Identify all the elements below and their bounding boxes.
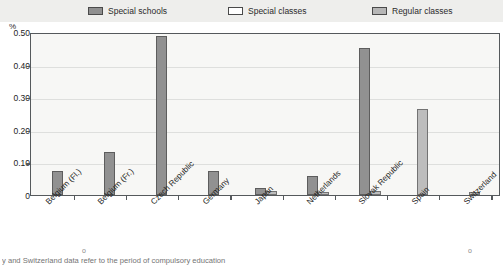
x-axis-tick [74, 196, 75, 200]
gridline [31, 164, 499, 165]
plot-area [30, 33, 500, 196]
legend-swatch-icon [228, 7, 243, 15]
x-axis-tick [126, 196, 127, 200]
legend-item-regular-classes: Regular classes [372, 4, 452, 18]
x-axis-tick [439, 196, 440, 200]
legend-item-special-schools: Special schools [88, 4, 167, 18]
x-axis-tick [491, 196, 492, 200]
y-axis-tick [26, 98, 30, 99]
chart-legend: Special schools Special classes Regular … [0, 0, 503, 22]
x-axis-tick [387, 196, 388, 200]
x-axis-tick [283, 196, 284, 200]
y-axis-tick-label: 0 [4, 191, 30, 201]
x-axis-tick [335, 196, 336, 200]
footnote-marker-icon: o [468, 247, 472, 254]
x-axis-tick [178, 196, 179, 200]
y-axis-tick-label: 0.50 [4, 28, 30, 38]
legend-label: Special classes [248, 6, 307, 16]
bar-special_schools [359, 48, 370, 195]
legend-item-special-classes: Special classes [228, 4, 307, 18]
y-axis: 00.100.200.300.400.50 [0, 33, 30, 196]
footnote-marker-icon: o [82, 247, 86, 254]
bar-special_schools [156, 36, 167, 195]
bar-regular_classes [417, 109, 428, 195]
gridline [31, 67, 499, 68]
legend-swatch-icon [372, 7, 387, 15]
legend-swatch-icon [88, 7, 103, 15]
legend-label: Special schools [108, 6, 167, 16]
footnote-text: y and Switzerland data refer to the peri… [2, 256, 225, 265]
y-axis-tick [26, 66, 30, 67]
x-axis-tick [230, 196, 231, 200]
y-axis-tick [26, 131, 30, 132]
y-axis-tick [26, 163, 30, 164]
legend-label: Regular classes [392, 6, 452, 16]
gridline [31, 99, 499, 100]
gridline [31, 132, 499, 133]
footnote-markers: o o [0, 247, 503, 255]
